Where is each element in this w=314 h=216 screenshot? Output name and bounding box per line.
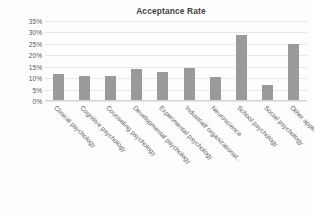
x-axis-label-slot: Neuroscience — [202, 101, 228, 211]
x-axis: Clinical psychologyCognitive psychologyC… — [45, 101, 307, 211]
bar[interactable] — [288, 44, 299, 101]
y-axis-tick-label: 5% — [18, 86, 42, 93]
x-axis-label-slot: Experimental psychology — [150, 101, 176, 211]
x-axis-label-slot: Developmental psychology — [124, 101, 150, 211]
x-axis-label-slot: Cognitive psychology — [71, 101, 97, 211]
bar[interactable] — [184, 68, 195, 101]
y-axis-tick-label: 25% — [18, 40, 42, 47]
bar[interactable] — [79, 76, 90, 101]
bar[interactable] — [157, 72, 168, 101]
bar[interactable] — [262, 85, 273, 101]
y-axis-tick-label: 20% — [18, 52, 42, 59]
bar-slot — [97, 21, 123, 101]
chart-container: Acceptance Rate 35%30%25%20%15%10%5%0% C… — [0, 0, 314, 216]
chart-title: Acceptance Rate — [0, 6, 314, 16]
bar-slot — [176, 21, 202, 101]
bar-slot — [281, 21, 307, 101]
bar[interactable] — [53, 74, 64, 101]
bar-slot — [71, 21, 97, 101]
x-axis-label-slot: Industrial/ organizational... — [176, 101, 202, 211]
y-axis-tick-label: 10% — [18, 75, 42, 82]
bar[interactable] — [105, 76, 116, 101]
x-axis-label-slot: Social psychology — [255, 101, 281, 211]
bar-slot — [45, 21, 71, 101]
y-axis-tick-label: 30% — [18, 29, 42, 36]
bar[interactable] — [210, 77, 221, 101]
y-axis: 35%30%25%20%15%10%5%0% — [18, 21, 42, 101]
y-axis-tick-label: 15% — [18, 63, 42, 70]
bar-slot — [228, 21, 254, 101]
x-axis-label-slot: Counseling psychology — [97, 101, 123, 211]
bar-slot — [124, 21, 150, 101]
y-axis-tick-label: 35% — [18, 18, 42, 25]
bar[interactable] — [236, 35, 247, 101]
x-axis-label-slot: School psychology — [228, 101, 254, 211]
bar-slot — [202, 21, 228, 101]
plot-area — [45, 21, 307, 101]
y-axis-tick-label: 0% — [18, 98, 42, 105]
x-axis-label-slot: Clinical psychology — [45, 101, 71, 211]
bar-slot — [150, 21, 176, 101]
x-axis-tick-label: Other applied psychology — [289, 104, 314, 162]
bar-slot — [255, 21, 281, 101]
bar[interactable] — [131, 69, 142, 101]
x-axis-label-slot: Other applied psychology — [281, 101, 307, 211]
